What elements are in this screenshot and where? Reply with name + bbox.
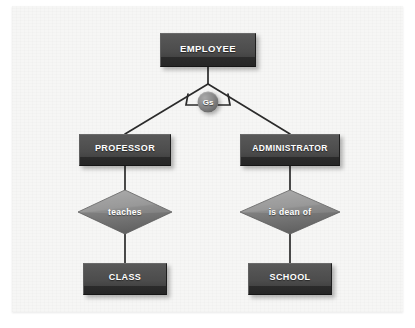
relationship-teaches[interactable]: teaches xyxy=(76,188,174,236)
generalization-symbol-label: Gs xyxy=(203,98,214,107)
generalization-symbol[interactable]: Gs xyxy=(198,92,219,113)
entity-class[interactable]: CLASS xyxy=(83,263,167,295)
relationship-is-dean-of[interactable]: is dean of xyxy=(238,188,342,236)
entity-school[interactable]: SCHOOL xyxy=(248,263,332,295)
entity-employee-label: EMPLOYEE xyxy=(180,43,236,54)
entity-school-label: SCHOOL xyxy=(270,272,311,282)
subset-bracket-right xyxy=(218,94,230,105)
entity-professor[interactable]: PROFESSOR xyxy=(79,134,171,166)
is-dean-of-diamond-shape xyxy=(238,188,342,236)
entity-administrator[interactable]: ADMINISTRATOR xyxy=(240,134,340,166)
connector-gs-professor xyxy=(125,84,208,134)
entity-class-label: CLASS xyxy=(109,272,142,282)
diagram-canvas: EMPLOYEE PROFESSOR ADMINISTRATOR CLASS S… xyxy=(12,6,403,312)
entity-professor-label: PROFESSOR xyxy=(95,143,155,153)
teaches-diamond-shape xyxy=(76,188,174,236)
connector-gs-administrator xyxy=(208,84,290,134)
entity-administrator-label: ADMINISTRATOR xyxy=(252,143,328,153)
entity-employee[interactable]: EMPLOYEE xyxy=(160,33,256,67)
subset-bracket-left xyxy=(186,94,198,105)
